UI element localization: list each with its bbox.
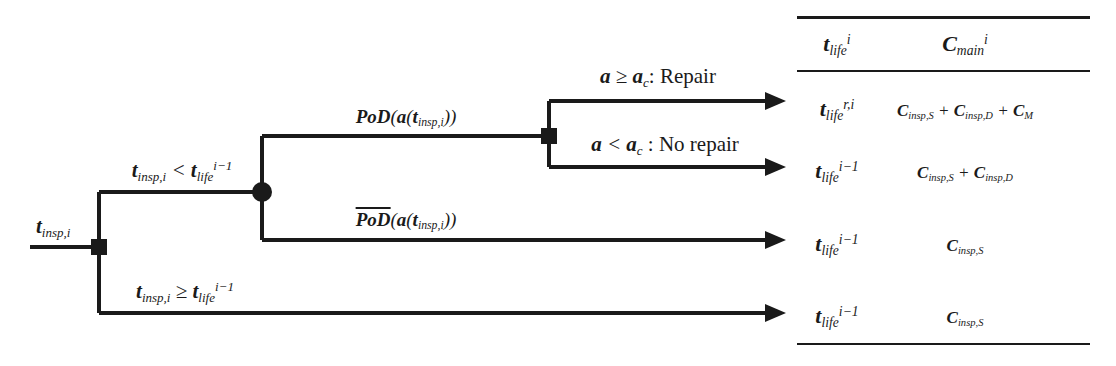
hdr1-sup: i <box>847 32 851 47</box>
upper-cond-relation: < <box>171 158 185 182</box>
lower-cond-sub2: life <box>198 290 215 305</box>
r3c2-sub1: insp,S <box>958 245 983 256</box>
r4c2-sub1: insp,S <box>958 317 983 328</box>
no-repair-word: No repair <box>659 132 739 156</box>
table-row3-col2: Cinsp,S <box>947 237 984 254</box>
r2c2-sub1: insp,S <box>928 172 953 183</box>
r4c1-sup: i−1 <box>839 304 859 319</box>
lower-cond-sup2: i−1 <box>215 279 234 294</box>
no-detect-overline-group: PoD <box>356 207 391 229</box>
upper-cond-sub1: insp,i <box>138 169 167 184</box>
r1c2-sub1: insp,S <box>908 110 933 121</box>
branch-label-repair: a ≥ ac: Repair <box>600 66 716 87</box>
r1c2-c3: C <box>1013 101 1024 120</box>
repair-a2: a <box>633 64 644 88</box>
arrowhead-no-detect <box>765 231 786 249</box>
lower-cond-sub1: insp,i <box>142 290 171 305</box>
upper-cond-sub2: life <box>197 169 214 184</box>
table-rule-mid <box>797 70 1090 72</box>
root-label: tinsp,i <box>36 216 70 237</box>
upper-cond-sup2: i−1 <box>213 158 232 173</box>
no-repair-a1: a <box>591 132 602 156</box>
repair-word: Repair <box>660 64 716 88</box>
table-row2-col1: tlifei−1 <box>815 160 858 182</box>
no-repair-relation: < <box>607 132 621 156</box>
table-row4-col2: Cinsp,S <box>947 309 984 326</box>
table-row1-col1: tlifer,i <box>820 98 855 120</box>
detect-alpha: a <box>397 106 407 127</box>
r3c2-c1: C <box>947 236 958 255</box>
arrowhead-repair <box>765 92 786 110</box>
r1c2-plus2: + <box>997 101 1008 120</box>
no-repair-a2: a <box>626 132 637 156</box>
table-rule-top <box>797 16 1090 19</box>
table-row2-col2: Cinsp,S + Cinsp,D <box>917 164 1013 181</box>
hdr2-c: C <box>942 31 957 56</box>
r4c2-c1: C <box>947 308 958 327</box>
hdr1-sub: life <box>829 43 846 58</box>
r1c2-c2: C <box>954 101 965 120</box>
r2c2-c1: C <box>917 163 928 182</box>
no-detect-pod: PoD <box>356 209 391 230</box>
no-detect-rp2: ) <box>450 209 456 230</box>
detect-pod: PoD <box>356 106 391 127</box>
repair-a1: a <box>600 64 611 88</box>
table-header-col2: Cmaini <box>942 33 988 55</box>
arrowhead-no-repair <box>765 158 786 176</box>
r2c2-sub2: insp,D <box>985 172 1013 183</box>
table-row4-col1: tlifei−1 <box>815 305 858 327</box>
r1c1-sub: life <box>826 108 843 123</box>
branch-label-no-repair: a < ac : No repair <box>591 134 739 155</box>
branch-label-no-detect: PoD(a(tinsp,i)) <box>356 207 457 229</box>
lower-cond-relation: ≥ <box>176 279 188 303</box>
arrowhead-no-inspection <box>765 304 786 322</box>
r2c1-sub: life <box>821 170 838 185</box>
r1c2-plus1: + <box>938 101 949 120</box>
repair-relation: ≥ <box>616 64 628 88</box>
hdr2-sub: main <box>957 43 984 58</box>
detect-sub: insp,i <box>418 116 444 129</box>
r2c1-sup: i−1 <box>839 159 859 174</box>
r4c1-sub: life <box>821 315 838 330</box>
r3c1-sub: life <box>821 243 838 258</box>
decision-tree-figure: tinsp,i tinsp,i < tlifei−1 tinsp,i ≥ tli… <box>0 0 1116 366</box>
r1c2-sub3: M <box>1024 110 1033 121</box>
second-decision-node <box>541 128 557 144</box>
root-decision-node <box>91 239 107 255</box>
branch-label-detect: PoD(a(tinsp,i)) <box>356 107 457 126</box>
r2c2-plus1: + <box>958 163 969 182</box>
root-label-sub: insp,i <box>42 225 71 240</box>
r1c2-c1: C <box>897 101 908 120</box>
branch-label-lower-condition: tinsp,i ≥ tlifei−1 <box>136 281 234 302</box>
no-detect-sub: insp,i <box>418 219 444 232</box>
r1c2-sub2: insp,D <box>965 110 993 121</box>
branch-label-upper-condition: tinsp,i < tlifei−1 <box>132 160 233 181</box>
no-detect-alpha: a <box>397 209 407 230</box>
r1c1-sup: r,i <box>843 97 854 112</box>
hdr2-sup: i <box>984 32 988 47</box>
detect-rp2: ) <box>450 106 456 127</box>
chance-node <box>252 182 272 202</box>
table-row1-col2: Cinsp,S + Cinsp,D + CM <box>897 102 1033 119</box>
r3c1-sup: i−1 <box>839 232 859 247</box>
r2c2-c2: C <box>974 163 985 182</box>
table-header-col1: tlifei <box>823 33 850 55</box>
table-row3-col1: tlifei−1 <box>815 233 858 255</box>
outcome-table: tlifei Cmaini tlifer,i Cinsp,S + Cinsp,D… <box>797 0 1093 366</box>
table-rule-bottom <box>797 343 1090 345</box>
